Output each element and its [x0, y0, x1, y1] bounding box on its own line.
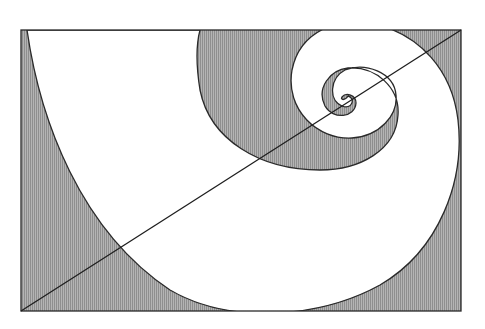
diagram-canvas: [0, 0, 485, 329]
spiral-diagram: [0, 0, 485, 329]
